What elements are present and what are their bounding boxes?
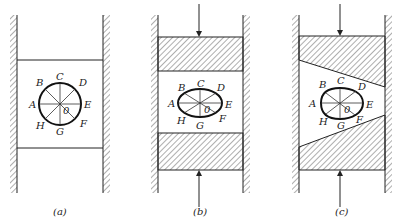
label-H: H — [176, 115, 186, 126]
left-wall — [10, 15, 17, 193]
label-A: A — [308, 98, 316, 109]
label-G: G — [196, 120, 204, 131]
label-F: F — [355, 114, 364, 125]
label-B: B — [35, 77, 43, 88]
label-C: C — [56, 71, 64, 82]
label-C: C — [197, 78, 205, 89]
label-O: 0 — [204, 104, 211, 115]
label-A: A — [28, 99, 36, 110]
panel-a: C B D A E 0 F H G (a) — [10, 15, 110, 217]
label-A: A — [167, 98, 175, 109]
label-B: B — [177, 82, 185, 93]
label-C: C — [337, 75, 345, 86]
label-G: G — [56, 126, 64, 137]
label-H: H — [35, 120, 45, 131]
label-E: E — [83, 99, 92, 110]
caption-b: (b) — [193, 206, 207, 217]
label-D: D — [216, 82, 225, 93]
label-G: G — [337, 120, 345, 131]
label-B: B — [318, 79, 326, 90]
label-E: E — [224, 99, 233, 110]
right-wall — [103, 15, 110, 193]
label-E: E — [365, 99, 374, 110]
left-wall — [292, 15, 299, 193]
panel-b: C B D A E 0 F H G (b) — [151, 4, 250, 217]
label-O: 0 — [344, 104, 351, 115]
label-H: H — [318, 116, 328, 127]
caption-a: (a) — [53, 206, 67, 217]
caption-c: (c) — [335, 206, 349, 217]
label-F: F — [79, 118, 88, 129]
label-O: 0 — [63, 105, 70, 116]
label-F: F — [218, 113, 227, 124]
label-D: D — [357, 81, 366, 92]
right-wall — [385, 15, 392, 193]
right-wall — [243, 15, 250, 193]
circle-element — [39, 83, 81, 125]
strain-diagram: C B D A E 0 F H G (a) C B D A E 0 F — [0, 0, 398, 221]
label-D: D — [78, 77, 87, 88]
top-block — [158, 37, 243, 71]
left-wall — [151, 15, 158, 193]
ellipse-element — [178, 89, 222, 117]
panel-c: C B D A E 0 F H G (c) — [292, 4, 392, 217]
bottom-block — [158, 133, 243, 170]
